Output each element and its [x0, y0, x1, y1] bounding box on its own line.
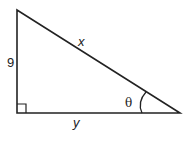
right-angle-marker — [17, 104, 26, 113]
triangle-outline — [17, 10, 180, 113]
right-triangle-diagram — [0, 0, 187, 141]
angle-theta-label: θ — [125, 97, 132, 109]
horizontal-side-label: y — [73, 116, 80, 129]
hypotenuse-label: x — [78, 35, 85, 48]
angle-arc — [140, 92, 146, 113]
vertical-side-label: 9 — [7, 56, 14, 69]
